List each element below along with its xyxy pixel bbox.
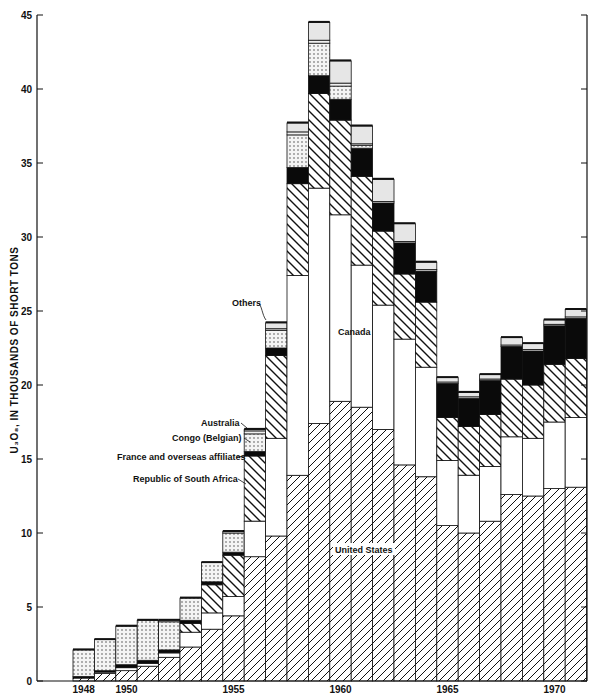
segment-canada — [308, 188, 329, 423]
x-tick-label: 1970 — [543, 684, 566, 695]
bar-cap — [308, 21, 329, 23]
segment-congo-belgian- — [266, 330, 287, 348]
annotation-congo: Congo (Belgian) — [172, 433, 242, 443]
bar-1969 — [522, 342, 543, 681]
segment-united-states — [116, 671, 137, 681]
annotation-south-africa: Republic of South Africa — [133, 474, 239, 484]
bar-cap — [137, 619, 158, 621]
segment-canada — [373, 305, 394, 429]
segment-france-and-overseas-affiliates — [565, 318, 586, 358]
annotation-australia: Australia — [201, 418, 241, 428]
segment-others — [351, 126, 372, 144]
segment-australia — [287, 132, 308, 135]
bar-1956 — [244, 428, 265, 681]
segment-republic-of-south-africa — [437, 418, 458, 461]
bar-cap — [266, 321, 287, 323]
segment-france-and-overseas-affiliates — [266, 348, 287, 355]
segment-france-and-overseas-affiliates — [116, 665, 137, 668]
stacked-bar-chart: 051015202530354045 194819501955196019651… — [0, 0, 606, 696]
segment-republic-of-south-africa — [351, 176, 372, 265]
segment-republic-of-south-africa — [501, 379, 522, 437]
segment-france-and-overseas-affiliates — [287, 167, 308, 183]
segment-united-states — [437, 526, 458, 681]
segment-republic-of-south-africa — [415, 302, 436, 367]
segment-others — [373, 179, 394, 201]
bar-cap — [223, 530, 244, 532]
segment-france-and-overseas-affiliates — [522, 351, 543, 385]
segment-united-states — [159, 657, 180, 681]
segment-united-states — [201, 629, 222, 681]
segment-others — [437, 378, 458, 382]
bar-1962 — [373, 178, 394, 681]
bar-1953 — [180, 597, 201, 681]
bar-1968 — [501, 336, 522, 681]
segment-united-states — [94, 674, 115, 681]
bar-cap — [480, 373, 501, 375]
bar-cap — [415, 261, 436, 263]
segment-republic-of-south-africa — [480, 415, 501, 467]
bar-1948 — [73, 648, 94, 681]
x-tick-label: 1960 — [329, 684, 352, 695]
segment-france-and-overseas-affiliates — [501, 347, 522, 380]
segment-others — [330, 61, 351, 83]
segment-others — [501, 338, 522, 345]
segment-united-states — [223, 616, 244, 681]
bars-group — [73, 21, 587, 681]
bar-1960 — [330, 59, 351, 681]
segment-united-states — [373, 429, 394, 681]
y-tick-label: 35 — [21, 158, 33, 169]
segment-canada — [522, 438, 543, 496]
segment-canada — [180, 632, 201, 647]
segment-france-and-overseas-affiliates — [415, 271, 436, 302]
segment-others — [480, 375, 501, 379]
segment-others — [287, 123, 308, 132]
x-tick-label: 1965 — [436, 684, 459, 695]
bar-cap — [159, 619, 180, 621]
bar-1951 — [137, 619, 158, 681]
segment-united-states — [287, 475, 308, 681]
segment-canada — [415, 367, 436, 477]
segment-canada — [287, 276, 308, 476]
segment-others — [458, 392, 479, 396]
y-tick-label: 10 — [21, 528, 33, 539]
segment-republic-of-south-africa — [180, 623, 201, 632]
segment-republic-of-south-africa — [544, 364, 565, 422]
bar-cap — [437, 376, 458, 378]
bar-1950 — [116, 625, 137, 681]
annotation-france: France and overseas affiliates — [117, 452, 246, 462]
bar-cap — [73, 648, 94, 650]
segment-united-states — [330, 401, 351, 681]
segment-australia — [330, 83, 351, 86]
segment-canada — [544, 422, 565, 489]
segment-canada — [223, 597, 244, 616]
x-tick-label: 1950 — [115, 684, 138, 695]
y-tick-label: 45 — [21, 10, 33, 21]
bar-cap — [116, 625, 137, 627]
segment-congo-belgian- — [180, 598, 201, 620]
segment-canada — [565, 418, 586, 488]
y-tick-label: 5 — [26, 602, 32, 613]
y-tick-label: 15 — [21, 454, 33, 465]
segment-france-and-overseas-affiliates — [308, 76, 329, 94]
bar-1955 — [223, 530, 244, 681]
x-tick-label: 1948 — [73, 684, 96, 695]
annotation-united-states: United States — [335, 545, 393, 555]
annotation-others: Others — [232, 298, 261, 308]
segment-united-states — [137, 666, 158, 681]
segment-united-states — [565, 487, 586, 681]
segment-republic-of-south-africa — [266, 355, 287, 438]
segment-united-states — [544, 489, 565, 681]
bar-1949 — [94, 638, 115, 681]
segment-australia — [308, 40, 329, 43]
segment-republic-of-south-africa — [287, 184, 308, 276]
bar-1959 — [308, 21, 329, 681]
y-axis-label: U₃O₈, IN THOUSANDS OF SHORT TONS — [9, 247, 20, 454]
y-tick-label: 40 — [21, 84, 33, 95]
segment-france-and-overseas-affiliates — [480, 381, 501, 415]
segment-congo-belgian- — [201, 563, 222, 582]
segment-canada — [394, 339, 415, 465]
segment-france-and-overseas-affiliates — [223, 552, 244, 555]
bar-1964 — [415, 261, 436, 681]
bar-cap — [544, 318, 565, 320]
bar-cap — [522, 342, 543, 344]
